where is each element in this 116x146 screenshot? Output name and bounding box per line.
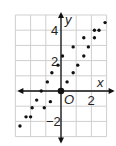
data-point	[76, 63, 79, 66]
data-point	[82, 36, 85, 39]
y-tick-label: 2	[51, 54, 58, 69]
data-point	[93, 29, 96, 32]
data-point	[29, 115, 32, 118]
data-point	[18, 124, 21, 127]
x-axis-arrow-right-icon	[109, 88, 115, 94]
y-tick-label: 4	[51, 23, 58, 38]
data-point	[46, 80, 49, 83]
x-axis-arrow-left-icon	[17, 88, 23, 94]
data-point	[71, 71, 74, 74]
data-point	[43, 106, 46, 109]
data-points	[18, 21, 107, 128]
data-point	[103, 21, 106, 24]
data-point	[24, 115, 27, 118]
data-point	[50, 71, 53, 74]
data-point	[71, 45, 74, 48]
y-tick-label: −2	[46, 114, 61, 129]
x-axis-label: x	[96, 75, 104, 90]
data-point	[30, 106, 33, 109]
data-point	[35, 98, 38, 101]
data-point	[61, 54, 64, 57]
data-point	[97, 29, 100, 32]
origin-label: O	[64, 92, 74, 107]
data-point	[40, 89, 43, 92]
data-point	[65, 80, 68, 83]
data-point	[87, 45, 90, 48]
x-tick-label: 2	[87, 93, 94, 108]
data-point	[82, 54, 85, 57]
scatter-plot: x y O 242−2	[0, 0, 116, 146]
y-axis-arrow-down-icon	[58, 138, 64, 144]
data-point	[49, 100, 52, 103]
y-axis-label: y	[64, 12, 73, 27]
data-point	[93, 36, 96, 39]
